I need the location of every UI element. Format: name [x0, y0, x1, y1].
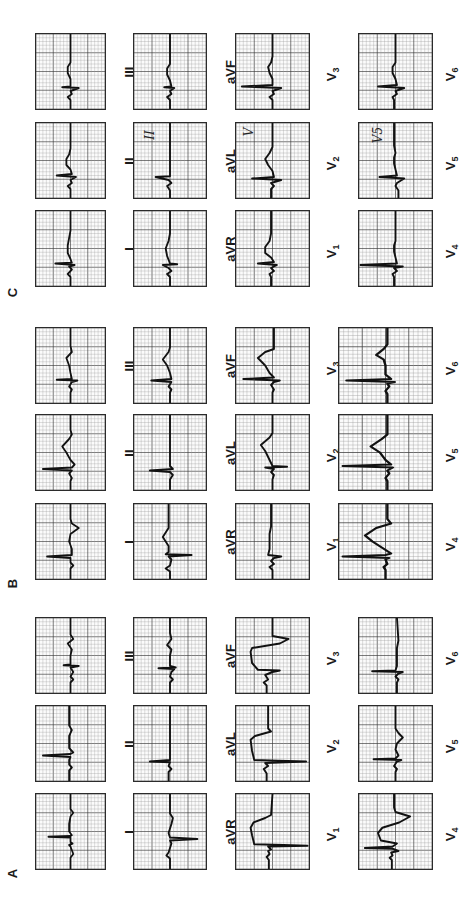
lead-label: V4 — [444, 814, 463, 854]
ecg-lead-c-i — [35, 210, 106, 287]
ecg-lead-a-avr — [133, 793, 207, 870]
ecg-trace-icon — [134, 211, 206, 286]
ecg-trace-icon — [359, 123, 432, 198]
ecg-trace-icon — [134, 618, 206, 693]
ecg-trace-icon — [36, 794, 105, 869]
ecg-trace-icon — [339, 415, 432, 490]
ecg-lead-b-avl — [133, 414, 207, 491]
lead-label: V3 — [325, 54, 344, 94]
ecg-trace-icon — [36, 618, 105, 693]
handwritten-annotation: II — [143, 130, 157, 139]
ecg-lead-c-iii — [35, 33, 106, 110]
ecg-trace-icon — [236, 794, 309, 869]
ecg-lead-b-v2 — [235, 414, 310, 491]
ecg-lead-c-v6 — [358, 33, 433, 110]
handwritten-annotation: V — [242, 128, 256, 137]
ecg-trace-icon — [339, 504, 432, 579]
ecg-trace-icon — [359, 706, 432, 781]
ecg-trace-icon — [134, 504, 206, 579]
ecg-trace-icon — [236, 706, 309, 781]
ecg-trace-icon — [359, 794, 432, 869]
ecg-lead-c-v4 — [358, 210, 433, 287]
lead-label: V4 — [444, 524, 463, 564]
ecg-lead-a-iii — [35, 617, 106, 694]
ecg-lead-b-v5 — [338, 414, 433, 491]
ecg-trace-icon — [36, 123, 105, 198]
ecg-lead-b-v3 — [235, 327, 310, 404]
section-letter-b: B — [5, 579, 20, 588]
ecg-lead-b-avr — [133, 503, 207, 580]
ecg-lead-a-i — [35, 793, 106, 870]
ecg-trace-icon — [339, 328, 432, 403]
ecg-lead-b-i — [35, 503, 106, 580]
ecg-lead-c-avr — [133, 210, 207, 287]
ecg-trace-icon — [236, 211, 309, 286]
ecg-lead-a-avl — [133, 705, 207, 782]
ecg-trace-icon — [236, 34, 309, 109]
ecg-lead-c-v1 — [235, 210, 310, 287]
ecg-lead-b-v1 — [235, 503, 310, 580]
ecg-trace-icon — [134, 34, 206, 109]
ecg-trace-icon — [359, 34, 432, 109]
ecg-trace-icon — [36, 211, 105, 286]
ecg-trace-icon — [36, 34, 105, 109]
ecg-lead-a-avf — [133, 617, 207, 694]
ecg-trace-icon — [134, 706, 206, 781]
ecg-lead-a-v3 — [235, 617, 310, 694]
ecg-lead-a-v5 — [358, 705, 433, 782]
ecg-lead-a-v1 — [235, 793, 310, 870]
ecg-trace-icon — [36, 415, 105, 490]
ecg-trace-icon — [236, 328, 309, 403]
lead-label: V5 — [444, 435, 463, 475]
lead-label: V1 — [325, 231, 344, 271]
lead-label: V5 — [444, 143, 463, 183]
ecg-lead-a-v2 — [235, 705, 310, 782]
lead-label: V6 — [444, 638, 463, 678]
ecg-trace-icon — [359, 211, 432, 286]
section-letter-a: A — [5, 869, 20, 878]
ecg-trace-icon — [236, 618, 309, 693]
lead-label: V5 — [444, 726, 463, 766]
ecg-lead-c-v3 — [235, 33, 310, 110]
ecg-trace-icon — [134, 328, 206, 403]
ecg-trace-icon — [36, 706, 105, 781]
ecg-trace-icon — [36, 504, 105, 579]
ecg-lead-b-avf — [133, 327, 207, 404]
ecg-lead-a-v6 — [358, 617, 433, 694]
ecg-trace-icon — [36, 328, 105, 403]
lead-label: V6 — [444, 348, 463, 388]
ecg-lead-b-v4 — [338, 503, 433, 580]
section-letter-c: C — [5, 288, 20, 297]
handwritten-annotation: V5 — [371, 127, 385, 143]
ecg-lead-c-avf — [133, 33, 207, 110]
ecg-trace-icon — [134, 415, 206, 490]
ecg-lead-b-v6 — [338, 327, 433, 404]
ecg-trace-icon — [236, 415, 309, 490]
ecg-trace-icon — [359, 618, 432, 693]
lead-label: V1 — [325, 814, 344, 854]
ecg-trace-icon — [236, 504, 309, 579]
lead-label: V4 — [444, 231, 463, 271]
ecg-lead-b-ii — [35, 414, 106, 491]
ecg-trace-icon — [134, 794, 206, 869]
ecg-lead-c-ii — [35, 122, 106, 199]
lead-label: V6 — [444, 54, 463, 94]
lead-label: V3 — [325, 638, 344, 678]
ecg-lead-c-v5 — [358, 122, 433, 199]
ecg-lead-a-v4 — [358, 793, 433, 870]
lead-label: V2 — [325, 726, 344, 766]
ecg-lead-a-ii — [35, 705, 106, 782]
ecg-lead-b-iii — [35, 327, 106, 404]
lead-label: V2 — [325, 143, 344, 183]
